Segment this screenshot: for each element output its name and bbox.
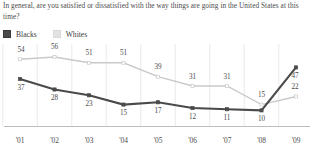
- data-label-whites-01: 54: [17, 46, 24, 54]
- light-square-swatch-icon: [53, 30, 61, 38]
- data-label-whites-06: 31: [189, 73, 196, 81]
- data-label-blacks-03: 23: [85, 100, 92, 108]
- data-label-whites-07: 31: [223, 73, 230, 81]
- plot-area: [0, 44, 314, 132]
- x-tick-06: '06: [188, 136, 197, 145]
- plot-svg: [0, 44, 314, 132]
- legend-label-blacks: Blacks: [16, 30, 37, 39]
- data-label-whites-08: 15: [258, 91, 265, 99]
- data-label-blacks-06: 12: [189, 113, 196, 121]
- x-tick-05: '05: [154, 136, 163, 145]
- chart-title: In general, are you satisfied or dissati…: [3, 1, 311, 22]
- x-tick-08: '08: [257, 136, 266, 145]
- x-axis: '01'02'03'04'05'06'07'08'09: [0, 134, 314, 148]
- x-tick-03: '03: [85, 136, 94, 145]
- data-label-blacks-05: 17: [154, 107, 161, 115]
- data-label-blacks-02: 28: [51, 94, 58, 102]
- data-label-blacks-01: 37: [17, 84, 24, 92]
- data-label-whites-02: 56: [51, 43, 58, 51]
- data-label-whites-04: 51: [120, 49, 127, 57]
- x-tick-02: '02: [50, 136, 59, 145]
- chart-container: In general, are you satisfied or dissati…: [0, 0, 314, 159]
- gridlines: [3, 44, 279, 126]
- data-label-whites-09: 22: [291, 83, 298, 91]
- x-tick-07: '07: [223, 136, 232, 145]
- dark-square-swatch-icon: [3, 30, 11, 38]
- x-tick-01: '01: [16, 136, 25, 145]
- x-tick-09: '09: [292, 136, 301, 145]
- data-label-blacks-09: 47: [291, 72, 298, 80]
- series-markers-blacks: [18, 66, 297, 112]
- chart-title-line-1: In general, are you satisfied or dissati…: [3, 1, 279, 10]
- data-label-blacks-07: 11: [224, 114, 231, 122]
- data-label-whites-05: 39: [154, 63, 161, 71]
- data-label-blacks-04: 15: [120, 109, 127, 117]
- legend-item-blacks: Blacks: [3, 30, 37, 39]
- x-tick-04: '04: [119, 136, 128, 145]
- legend-item-whites: Whites: [53, 30, 88, 39]
- chart-legend: Blacks Whites: [3, 28, 103, 40]
- data-label-blacks-08: 10: [258, 115, 265, 123]
- legend-label-whites: Whites: [66, 30, 88, 39]
- data-label-whites-03: 51: [85, 49, 92, 57]
